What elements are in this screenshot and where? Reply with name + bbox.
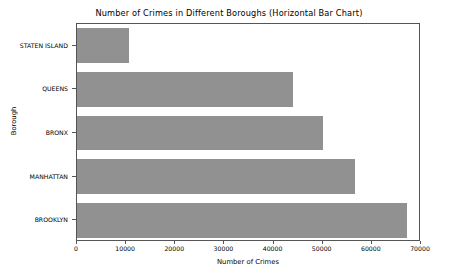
x-axis-tick-mark xyxy=(273,241,274,244)
x-axis-tick-label: 50000 xyxy=(312,245,332,252)
y-axis-tick-label: MANHATTAN xyxy=(0,172,68,179)
x-axis-tick-mark xyxy=(420,241,421,244)
bar[interactable] xyxy=(77,159,355,194)
plot-area xyxy=(76,23,420,241)
x-axis-tick-label: 60000 xyxy=(361,245,381,252)
y-axis-tick-label: BRONX xyxy=(0,129,68,136)
y-axis-tick-label: BROOKLYN xyxy=(0,216,68,223)
chart-title: Number of Crimes in Different Boroughs (… xyxy=(0,8,458,18)
bar-band xyxy=(77,24,419,68)
x-axis-tick-mark xyxy=(371,241,372,244)
x-axis-tick-mark xyxy=(174,241,175,244)
chart-figure: Number of Crimes in Different Boroughs (… xyxy=(0,0,458,278)
x-axis-tick-mark xyxy=(322,241,323,244)
x-axis-tick-label: 70000 xyxy=(410,245,430,252)
bars-layer xyxy=(77,24,419,240)
y-axis-tick-label: STATEN ISLAND xyxy=(0,41,68,48)
bar-band xyxy=(77,68,419,112)
bar[interactable] xyxy=(77,28,129,63)
x-axis-tick-label: 20000 xyxy=(164,245,184,252)
x-axis-tick-label: 40000 xyxy=(263,245,283,252)
x-axis-tick-label: 0 xyxy=(74,245,78,252)
bar[interactable] xyxy=(77,116,323,151)
bar-band xyxy=(77,155,419,199)
bar[interactable] xyxy=(77,203,407,238)
bar-band xyxy=(77,111,419,155)
y-axis-tick-label: QUEENS xyxy=(0,85,68,92)
x-axis-tick-mark xyxy=(125,241,126,244)
bar[interactable] xyxy=(77,72,293,107)
x-axis-tick-mark xyxy=(223,241,224,244)
x-axis-tick-label: 30000 xyxy=(214,245,234,252)
x-axis-tick-label: 10000 xyxy=(115,245,135,252)
bar-band xyxy=(77,198,419,242)
y-axis-tick-layer: STATEN ISLANDQUEENSBRONXMANHATTANBROOKLY… xyxy=(0,23,76,241)
x-axis-label: Number of Crimes xyxy=(76,258,420,266)
x-axis-tick-mark xyxy=(76,241,77,244)
